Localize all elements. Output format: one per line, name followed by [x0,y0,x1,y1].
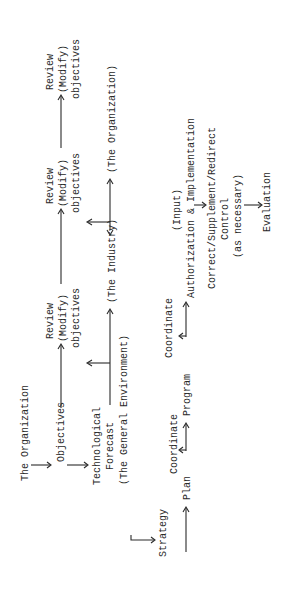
node-coordinate-2: Coordinate [164,298,175,358]
node-as-necessary: (as necessary) [233,174,244,258]
node-the-organization-2: (The Organization) [107,65,118,173]
arrow-to-plan [183,507,189,552]
node-input: (Input) [172,189,183,231]
node-technological: Technological [92,407,103,485]
node-review-3: Review [45,54,56,90]
node-modify-2: (Modify) [58,159,69,207]
node-objectives-3: objectives [71,39,82,99]
arrow-objectives-to-forecast [67,462,88,468]
node-control: Control [220,198,231,240]
node-review-2: Review [45,168,56,204]
node-objectives-1: objectives [71,288,82,348]
arrow-objectives-to-review-1 [58,344,64,408]
node-authorization-implementation: Authorization & Implementation [186,118,197,298]
node-review-1: Review [45,303,56,339]
node-general-environment: (The General Environment) [119,335,130,485]
arrow-control-to-evaluation [244,202,262,208]
node-plan: Plan [182,476,193,500]
strategic-planning-diagram: The Organization Objectives Technologica… [0,0,286,603]
node-strategy: Strategy [158,509,169,557]
arrow-organization-to-objectives [31,462,51,468]
arrow-forecast-to-strategy [131,535,155,543]
node-objectives-2: objectives [71,153,82,213]
node-modify-3: (Modify) [58,45,69,93]
node-modify-1: (Modify) [58,294,69,342]
node-the-organization: The Organization [20,385,31,481]
arrow-plan-program-coordinate [179,423,189,453]
node-coordinate-1: Coordinate [169,414,180,474]
arrow-program-authorization-coordinate [179,302,189,339]
node-program: Program [182,374,193,416]
node-correct-supplement-redirect: Correct/Supplement/Redirect [207,127,218,289]
node-objectives: Objectives [56,402,67,462]
node-forecast: Forecast [105,422,116,470]
arrow-review-1-to-review-2 [58,209,64,284]
arrow-review-2-to-review-3 [58,95,64,148]
line-environment-to-industry [87,309,113,405]
node-evaluation: Evaluation [262,172,273,232]
